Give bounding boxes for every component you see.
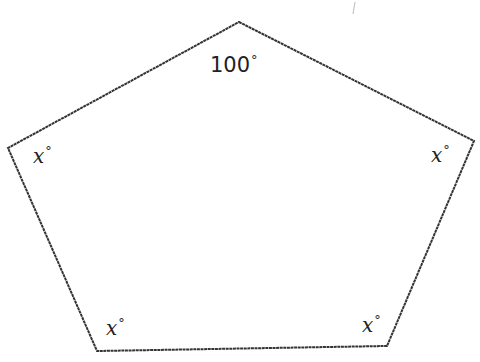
angle-value-bottom-right: x	[362, 313, 373, 337]
degree-symbol: °	[374, 312, 381, 327]
scan-mark	[353, 2, 355, 14]
angle-label-left: x°	[33, 146, 52, 166]
angle-value-bottom-left: x	[106, 316, 117, 340]
angle-value-left: x	[33, 144, 44, 168]
degree-symbol: °	[443, 142, 450, 157]
angle-label-bottom-right: x°	[362, 315, 381, 335]
degree-symbol: °	[251, 52, 258, 67]
angle-value-right: x	[431, 143, 442, 167]
angle-label-bottom-left: x°	[106, 318, 125, 338]
degree-symbol: °	[118, 315, 125, 330]
angle-label-top: 100°	[210, 55, 258, 76]
angle-value-top: 100	[210, 53, 250, 77]
angle-label-right: x°	[431, 145, 450, 165]
degree-symbol: °	[45, 143, 52, 158]
